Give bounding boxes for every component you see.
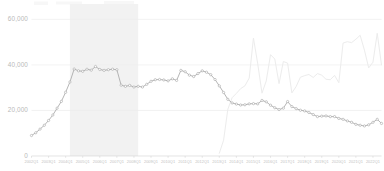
data-point-marker [286, 100, 288, 102]
data-point-marker [120, 84, 122, 86]
x-axis-tick-label: 2010Q1 [161, 159, 175, 164]
data-point-marker [355, 123, 357, 125]
x-axis-tick-label: 2007Q1 [110, 159, 124, 164]
x-axis-tick-label: 2011Q1 [178, 159, 192, 164]
data-point-marker [205, 71, 207, 73]
data-point-marker [350, 121, 352, 123]
data-point-marker [278, 108, 280, 110]
data-point-marker [359, 124, 361, 126]
data-point-marker [240, 104, 242, 106]
y-axis-tick-label: 0 [24, 152, 28, 159]
data-point-marker [333, 115, 335, 117]
data-point-marker [107, 69, 109, 71]
data-point-marker [274, 107, 276, 109]
data-point-marker [184, 71, 186, 73]
data-point-marker [35, 132, 37, 134]
data-point-marker [329, 115, 331, 117]
series-secondary [219, 33, 381, 153]
data-point-marker [197, 72, 199, 74]
x-axis-tick-label: 2002Q1 [24, 159, 38, 164]
data-point-marker [376, 118, 378, 120]
x-axis-tick-label: 2003Q1 [41, 159, 55, 164]
data-point-marker [235, 103, 237, 105]
data-point-marker [338, 117, 340, 119]
data-point-marker [227, 98, 229, 100]
data-point-marker [90, 69, 92, 71]
x-axis-tick-labels: 2002Q12003Q12004Q12005Q12006Q12007Q12008… [24, 156, 380, 164]
data-point-marker [82, 70, 84, 72]
chart-plot-area: 020,00040,00060,000 2002Q12003Q12004Q120… [0, 0, 384, 171]
data-point-marker [60, 100, 62, 102]
shaded-band-rect [70, 4, 138, 156]
chart-svg: 020,00040,00060,000 2002Q12003Q12004Q120… [0, 0, 384, 171]
x-axis-tick-label: 2004Q1 [59, 159, 73, 164]
data-point-marker [69, 81, 71, 83]
data-point-marker [193, 75, 195, 77]
data-point-marker [73, 68, 75, 70]
data-point-marker [158, 78, 160, 80]
data-point-marker [175, 79, 177, 81]
y-axis-tick-label: 20,000 [8, 106, 28, 113]
x-axis-tick-label: 2013Q1 [212, 159, 226, 164]
data-point-marker [380, 122, 382, 124]
data-point-marker [214, 78, 216, 80]
data-point-marker [56, 107, 58, 109]
data-point-marker [30, 134, 32, 136]
x-axis-tick-label: 2014Q1 [229, 159, 243, 164]
data-point-marker [265, 101, 267, 103]
x-axis-tick-label: 2009Q1 [144, 159, 158, 164]
data-point-marker [141, 86, 143, 88]
data-point-marker [111, 68, 113, 70]
data-point-marker [43, 124, 45, 126]
data-point-marker [244, 104, 246, 106]
x-axis-tick-label: 2005Q1 [76, 159, 90, 164]
x-axis-tick-label: 2015Q1 [246, 159, 260, 164]
data-point-marker [299, 109, 301, 111]
data-point-marker [321, 115, 323, 117]
y-axis-tick-label: 60,000 [8, 15, 28, 22]
data-point-marker [325, 115, 327, 117]
data-point-marker [291, 105, 293, 107]
data-point-marker [86, 68, 88, 70]
x-axis-tick-label: 2016Q1 [263, 159, 277, 164]
data-point-marker [363, 125, 365, 127]
x-axis-tick-label: 2012Q1 [195, 159, 209, 164]
data-point-marker [248, 103, 250, 105]
data-point-marker [252, 102, 254, 104]
data-point-marker [124, 85, 126, 87]
data-point-marker [269, 104, 271, 106]
data-point-marker [116, 69, 118, 71]
data-point-marker [180, 69, 182, 71]
series-secondary-path [219, 33, 381, 153]
y-axis-tick-label: 40,000 [8, 61, 28, 68]
y-axis-tick-labels: 020,00040,00060,000 [8, 15, 29, 159]
data-point-marker [94, 65, 96, 67]
top-decor-block [34, 2, 48, 6]
data-point-marker [368, 124, 370, 126]
x-axis-tick-label: 2019Q1 [315, 159, 329, 164]
x-axis-tick-label: 2018Q1 [298, 159, 312, 164]
x-axis-tick-label: 2020Q1 [332, 159, 346, 164]
x-axis-tick-label: 2008Q1 [127, 159, 141, 164]
data-point-marker [188, 74, 190, 76]
chart-container: 020,00040,00060,000 2002Q12003Q12004Q120… [0, 0, 384, 171]
data-point-marker [261, 99, 263, 101]
data-point-marker [218, 85, 220, 87]
data-point-marker [304, 110, 306, 112]
data-point-marker [150, 80, 152, 82]
x-axis-tick-label: 2022Q1 [366, 159, 380, 164]
data-point-marker [52, 114, 54, 116]
data-point-marker [137, 85, 139, 87]
data-point-marker [171, 78, 173, 80]
data-point-marker [163, 79, 165, 81]
data-point-marker [231, 102, 233, 104]
data-point-marker [312, 113, 314, 115]
data-point-marker [372, 121, 374, 123]
data-point-marker [167, 80, 169, 82]
data-point-marker [342, 118, 344, 120]
shaded-band [70, 4, 138, 156]
data-point-marker [295, 107, 297, 109]
data-point-marker [133, 86, 135, 88]
x-axis-tick-label: 2006Q1 [93, 159, 107, 164]
x-axis-tick-label: 2021Q1 [349, 159, 363, 164]
